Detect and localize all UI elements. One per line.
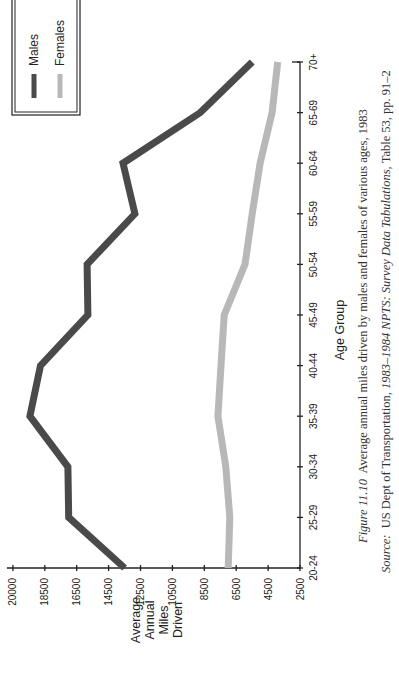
figure-label: Figure 11.10 — [356, 479, 370, 543]
y-axis-title-line: Annual — [143, 601, 157, 640]
series-line-females — [218, 62, 278, 568]
x-tick-label: 40-44 — [308, 352, 319, 378]
y-tick-label: 4500 — [263, 578, 274, 601]
source-caption: Source: US Dept of Transportation, 1983–… — [379, 70, 394, 573]
figure-text: Average annual miles driven by males and… — [356, 109, 370, 473]
x-axis-title: Age Group — [333, 300, 347, 361]
source-italic: 1983–1984 NPTS: Survey Data Tabulations, — [379, 166, 393, 389]
x-tick-label: 25-29 — [308, 504, 319, 530]
source-label: Source: — [379, 535, 393, 573]
x-tick-label: 35-39 — [308, 403, 319, 429]
line-chart: 2500450065008500105001250014500165001850… — [0, 0, 399, 688]
y-tick-label: 18500 — [39, 578, 50, 606]
legend-label-females: Females — [53, 20, 67, 66]
y-tick-label: 16500 — [71, 578, 82, 606]
y-axis-title-line: Driven — [171, 602, 185, 638]
y-tick-label: 20000 — [7, 578, 18, 606]
source-text-1: US Dept of Transportation, — [379, 392, 393, 528]
y-tick-label: 6500 — [231, 578, 242, 601]
source-text-2: Table 53, pp. 91–2 — [379, 70, 393, 163]
x-tick-label: 30-34 — [308, 454, 319, 480]
series-line-males — [30, 62, 252, 568]
legend: MalesFemales — [12, 0, 80, 115]
x-tick-label: 70+ — [308, 53, 319, 70]
y-tick-label: 2500 — [295, 578, 306, 601]
x-tick-label: 60-64 — [308, 150, 319, 176]
figure-caption: Figure 11.10 Average annual miles driven… — [356, 109, 371, 543]
y-tick-label: 14500 — [103, 578, 114, 606]
rotated-figure: 2500450065008500105001250014500165001850… — [0, 0, 399, 688]
y-axis-title-line: Miles — [157, 605, 171, 634]
y-axis-title-line: Average — [129, 597, 143, 643]
x-tick-label: 20-24 — [308, 555, 319, 581]
x-tick-label: 45-49 — [308, 302, 319, 328]
x-tick-label: 50-54 — [308, 251, 319, 277]
x-tick-label: 65-69 — [308, 99, 319, 125]
x-tick-label: 55-59 — [308, 201, 319, 227]
y-tick-label: 8500 — [199, 578, 210, 601]
legend-label-males: Males — [27, 34, 41, 66]
